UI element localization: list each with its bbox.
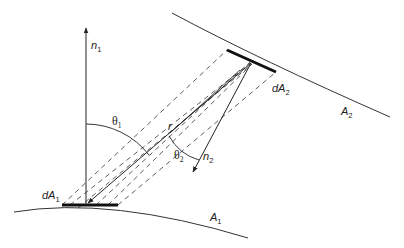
view-factor-diagram: n1 θ1 r θ2 n2 dA1 dA2 A1 A2 [0,0,404,248]
distance-r-line [88,63,251,203]
label-theta1: θ1 [112,114,122,130]
r-tick-line [170,70,240,133]
label-A1: A1 [209,211,222,226]
label-n1: n1 [91,39,101,54]
normal-n2-arrow [193,63,251,172]
label-n2: n2 [203,150,213,165]
label-dA2: dA2 [272,82,290,97]
label-dA1: dA1 [42,189,60,204]
label-A2: A2 [340,105,353,120]
